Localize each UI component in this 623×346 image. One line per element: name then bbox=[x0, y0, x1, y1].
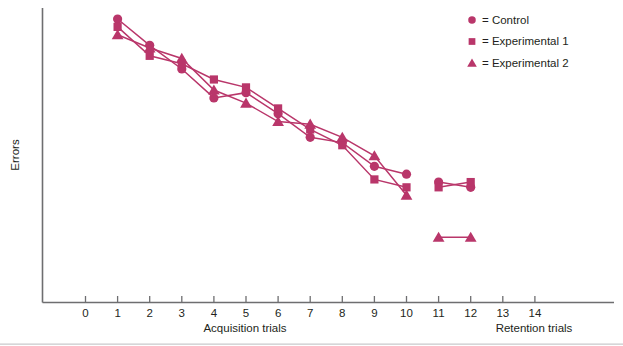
x-tick-label-14: 14 bbox=[529, 307, 542, 319]
chart-legend: = Control= Experimental 1= Experimental … bbox=[467, 14, 568, 69]
square-marker bbox=[274, 104, 282, 112]
square-marker bbox=[338, 141, 346, 149]
x-tick-label-7: 7 bbox=[307, 307, 313, 319]
x-axis-ticks bbox=[86, 296, 535, 303]
x-axis-tick-labels: 01234567891011121314 bbox=[82, 307, 542, 319]
x-tick-label-10: 10 bbox=[400, 307, 413, 319]
circle-marker bbox=[402, 170, 411, 179]
chart-figure: 01234567891011121314 Errors Acquisition … bbox=[0, 0, 623, 346]
square-marker bbox=[435, 183, 443, 191]
x-tick-label-9: 9 bbox=[371, 307, 377, 319]
triangle-marker bbox=[240, 98, 252, 108]
x-tick-label-3: 3 bbox=[179, 307, 185, 319]
triangle-marker bbox=[336, 132, 348, 142]
square-marker bbox=[467, 178, 475, 186]
series-experimental-1 bbox=[114, 23, 475, 192]
circle-marker bbox=[306, 133, 315, 142]
x-axis-title-acquisition: Acquisition trials bbox=[203, 322, 286, 334]
x-tick-label-4: 4 bbox=[211, 307, 218, 319]
series-layer bbox=[112, 14, 477, 241]
square-marker bbox=[242, 83, 250, 91]
legend-label: = Experimental 2 bbox=[482, 57, 569, 69]
legend-item-experimental-2[interactable]: = Experimental 2 bbox=[467, 57, 568, 69]
x-axis-title-retention: Retention trials bbox=[496, 322, 573, 334]
x-tick-label-2: 2 bbox=[146, 307, 152, 319]
circle-marker bbox=[113, 14, 122, 23]
x-tick-label-0: 0 bbox=[82, 307, 88, 319]
triangle-marker bbox=[467, 58, 477, 66]
series-experimental-2 bbox=[112, 29, 477, 242]
x-tick-label-12: 12 bbox=[464, 307, 477, 319]
triangle-marker bbox=[369, 150, 381, 160]
x-tick-label-8: 8 bbox=[339, 307, 345, 319]
legend-label: = Experimental 1 bbox=[482, 35, 569, 47]
errors-by-trial-line-chart: 01234567891011121314 Errors Acquisition … bbox=[0, 0, 623, 346]
x-tick-label-1: 1 bbox=[114, 307, 120, 319]
square-marker bbox=[146, 52, 154, 60]
x-tick-label-5: 5 bbox=[243, 307, 249, 319]
circle-marker bbox=[370, 162, 379, 171]
legend-item-control[interactable]: = Control bbox=[468, 14, 529, 26]
x-tick-label-13: 13 bbox=[496, 307, 509, 319]
square-marker bbox=[210, 75, 218, 83]
series-control bbox=[113, 14, 475, 192]
square-marker bbox=[469, 38, 476, 45]
x-tick-label-6: 6 bbox=[275, 307, 281, 319]
x-tick-label-11: 11 bbox=[433, 307, 445, 319]
legend-label: = Control bbox=[482, 14, 529, 26]
circle-marker bbox=[468, 16, 476, 24]
y-axis-title: Errors bbox=[9, 139, 21, 171]
circle-marker bbox=[209, 93, 218, 102]
square-marker bbox=[370, 175, 378, 183]
series-line-acquisition bbox=[118, 19, 407, 174]
legend-item-experimental-1[interactable]: = Experimental 1 bbox=[469, 35, 569, 47]
